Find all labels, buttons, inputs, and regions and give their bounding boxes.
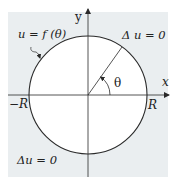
dirichlet-disk-diagram: y x u = f (θ) Δ u = 0 θ −R R Δu = 0 — [0, 0, 175, 182]
radius-label: R — [147, 98, 157, 112]
y-axis-label: y — [74, 10, 82, 24]
theta-label: θ — [114, 76, 121, 90]
boundary-condition-label: u = f (θ) — [18, 27, 66, 41]
x-axis-label: x — [162, 75, 169, 89]
exterior-laplace-label: Δu = 0 — [16, 153, 57, 167]
interior-laplace-label: Δ u = 0 — [121, 28, 166, 42]
neg-radius-label: −R — [9, 97, 28, 111]
